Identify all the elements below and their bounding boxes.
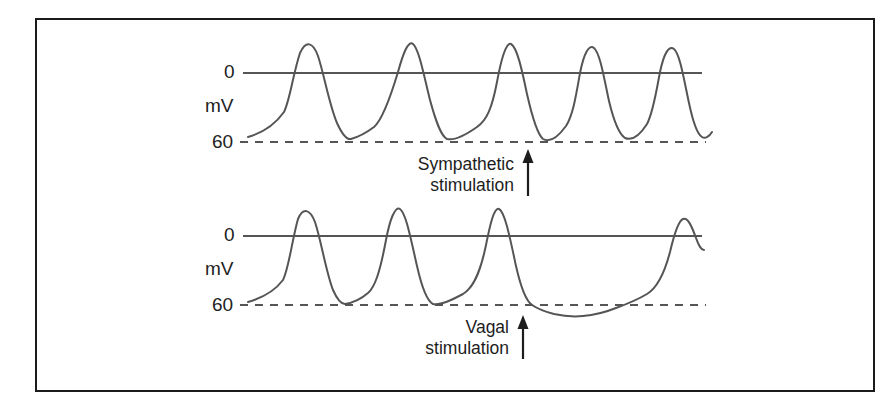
sympathetic-caption-line1: Sympathetic — [418, 154, 514, 174]
bottom-membrane-potential-trace — [248, 209, 704, 317]
top-zero-axis-label: 0 — [224, 62, 235, 81]
bottom-zero-axis-label: 0 — [224, 225, 235, 244]
vagal-stimulation-arrow — [518, 315, 529, 359]
top-sixty-axis-label: 60 — [212, 132, 233, 151]
vagal-panel-graphics — [240, 209, 706, 317]
sympathetic-stimulation-arrow — [523, 149, 534, 196]
vagal-caption-line1: Vagal — [466, 317, 509, 337]
sympathetic-caption-line2: stimulation — [430, 175, 514, 195]
top-mv-axis-label: mV — [205, 96, 234, 115]
top-membrane-potential-trace — [248, 43, 712, 140]
bottom-sixty-axis-label: 60 — [212, 295, 233, 314]
sympathetic-panel-graphics — [240, 43, 712, 142]
sympathetic-stimulation-caption: Sympathetic stimulation — [334, 154, 514, 197]
figure-root: 0 mV 60 Sympathetic stimulation 0 mV 60 … — [0, 0, 892, 415]
vagal-caption-line2: stimulation — [425, 338, 509, 358]
bottom-mv-axis-label: mV — [205, 259, 234, 278]
vagal-stimulation-caption: Vagal stimulation — [329, 317, 509, 360]
